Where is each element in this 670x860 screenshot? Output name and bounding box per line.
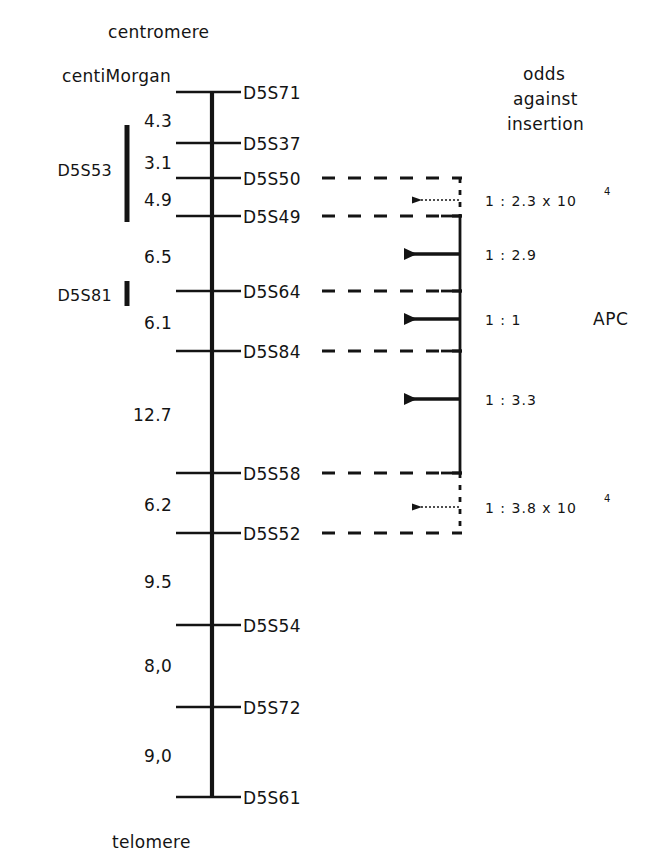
marker-label-D5S54: D5S54	[243, 616, 301, 636]
odds-exponent-3-8e4: 4	[604, 493, 611, 504]
odds-value-2-9: 1 : 2.9	[485, 247, 537, 263]
distance-label-6-2: 6.2	[144, 495, 172, 515]
connector-dashes-group	[322, 178, 462, 533]
marker-label-D5S50: D5S50	[243, 169, 301, 189]
apc-gene-label: APC	[593, 309, 629, 329]
group-label-D5S81: D5S81	[57, 286, 112, 305]
distance-label-6-5: 6.5	[144, 247, 172, 267]
distance-label-12-7: 12.7	[133, 405, 172, 425]
marker-label-D5S72: D5S72	[243, 698, 301, 718]
linkage-map-figure: centromere centiMorgan odds against inse…	[0, 0, 670, 860]
distance-label-8-0: 8,0	[144, 656, 172, 676]
marker-label-D5S37: D5S37	[243, 134, 301, 154]
marker-label-D5S58: D5S58	[243, 464, 301, 484]
distance-label-4-3: 4.3	[144, 111, 172, 131]
odds-value-2-3e4: 1 : 2.3 x 10	[485, 193, 577, 209]
group-label-D5S53: D5S53	[57, 161, 112, 180]
marker-label-group: D5S71 D5S37 D5S50 D5S49 D5S64 D5S84 D5S5…	[243, 83, 301, 808]
marker-label-D5S64: D5S64	[243, 282, 301, 302]
interval-distance-group: 4.3 3.1 4.9 6.5 6.1 12.7 6.2 9.5 8,0 9,0	[133, 111, 172, 766]
distance-label-9-0: 9,0	[144, 746, 172, 766]
marker-tick-group	[176, 92, 241, 797]
distance-label-3-1: 3.1	[144, 153, 172, 173]
odds-value-3-3: 1 : 3.3	[485, 392, 537, 408]
centimorgan-label: centiMorgan	[62, 66, 171, 86]
odds-value-3-8e4: 1 : 3.8 x 10	[485, 500, 577, 516]
group-bracket-group: D5S53 D5S81	[57, 125, 127, 306]
centromere-label: centromere	[108, 22, 209, 42]
odds-header-line-3: insertion	[507, 114, 584, 134]
distance-label-9-5: 9.5	[144, 572, 172, 592]
odds-header-line-2: against	[513, 89, 578, 109]
telomere-label: telomere	[112, 832, 191, 852]
marker-label-D5S84: D5S84	[243, 342, 301, 362]
marker-label-D5S52: D5S52	[243, 524, 301, 544]
odds-exponent-2-3e4: 4	[604, 186, 611, 197]
marker-label-D5S71: D5S71	[243, 83, 301, 103]
distance-label-4-9: 4.9	[144, 190, 172, 210]
linkage-map-canvas: centromere centiMorgan odds against inse…	[0, 0, 670, 860]
marker-label-D5S49: D5S49	[243, 207, 301, 227]
marker-label-D5S61: D5S61	[243, 788, 301, 808]
odds-value-1-1: 1 : 1	[485, 312, 521, 328]
odds-value-group: 1 : 2.3 x 10 4 1 : 2.9 1 : 1 1 : 3.3 1 :…	[485, 186, 611, 516]
distance-label-6-1: 6.1	[144, 313, 172, 333]
odds-arrow-group	[404, 200, 459, 507]
odds-header-line-1: odds	[523, 64, 565, 84]
